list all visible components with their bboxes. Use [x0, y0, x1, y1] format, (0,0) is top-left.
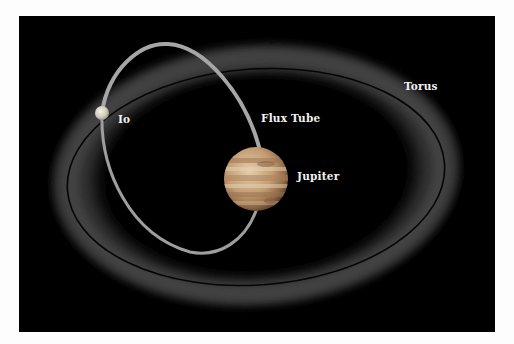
- jupiter-label: Jupiter: [297, 170, 339, 182]
- io-moon: [95, 106, 109, 120]
- io-label: Io: [118, 113, 130, 125]
- io-jupiter-diagram: [19, 16, 495, 332]
- flux-tube-label: Flux Tube: [261, 112, 320, 124]
- torus-label: Torus: [404, 80, 438, 92]
- diagram-frame: Io Flux Tube Jupiter Torus: [0, 0, 514, 344]
- space-panel: [19, 16, 495, 332]
